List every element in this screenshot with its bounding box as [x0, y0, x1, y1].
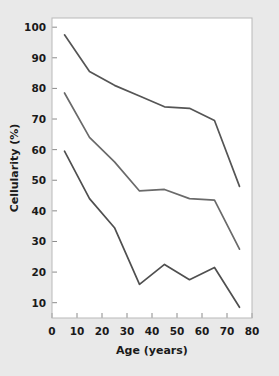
y-tick-label: 50	[31, 174, 46, 186]
y-tick-label: 30	[31, 235, 46, 247]
plot-area-background	[52, 18, 252, 318]
x-tick-label: 20	[95, 325, 110, 337]
x-tick-label: 50	[170, 325, 185, 337]
y-axis-tick-labels: 102030405060708090100	[24, 21, 46, 309]
y-tick-label: 90	[31, 52, 46, 64]
y-tick-label: 60	[31, 144, 46, 156]
y-tick-label: 20	[31, 266, 46, 278]
x-tick-label: 60	[195, 325, 210, 337]
cellularity-vs-age-line-chart: 01020304050607080 102030405060708090100 …	[0, 0, 279, 376]
chart-figure: 01020304050607080 102030405060708090100 …	[0, 0, 279, 376]
x-tick-label: 80	[245, 325, 260, 337]
y-tick-label: 40	[31, 205, 46, 217]
x-tick-label: 40	[145, 325, 160, 337]
y-tick-label: 80	[31, 82, 46, 94]
y-tick-label: 100	[24, 21, 46, 33]
x-tick-label: 30	[120, 325, 135, 337]
x-tick-label: 10	[70, 325, 85, 337]
x-tick-label: 0	[48, 325, 55, 337]
y-tick-label: 70	[31, 113, 46, 125]
x-axis-tick-labels: 01020304050607080	[48, 325, 259, 337]
y-tick-label: 10	[31, 297, 46, 309]
x-tick-label: 70	[220, 325, 235, 337]
x-axis-title: Age (years)	[116, 344, 188, 357]
y-axis-title: Cellularity (%)	[8, 124, 21, 213]
